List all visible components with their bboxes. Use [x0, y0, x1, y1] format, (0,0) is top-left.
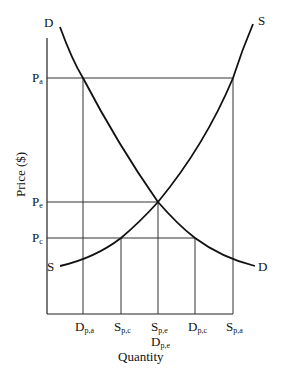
supply-demand-diagram: D S S D Pa Pe Pc Dp,a Sp,c Sp,e Dp,e Dp,… [0, 0, 284, 374]
y-axis-title: Price ($) [13, 152, 28, 197]
price-label-a: Pa [32, 70, 43, 86]
qty-label-dpe: Dp,e [151, 334, 170, 350]
supply-curve [60, 24, 253, 266]
qty-label-spa: Sp,a [226, 319, 243, 335]
qty-label-dpa: Dp,a [75, 319, 94, 335]
qty-label-dpc: Dp,c [188, 319, 207, 335]
price-label-e: Pe [32, 194, 43, 210]
demand-label-top: D [44, 15, 53, 30]
qty-label-spc: Sp,c [114, 319, 131, 335]
supply-label-top: S [258, 13, 265, 28]
supply-label-bottom: S [47, 259, 54, 274]
x-axis-title: Quantity [118, 349, 164, 364]
price-label-c: Pc [32, 230, 43, 246]
demand-label-bottom: D [258, 259, 267, 274]
qty-label-spe: Sp,e [151, 319, 168, 335]
